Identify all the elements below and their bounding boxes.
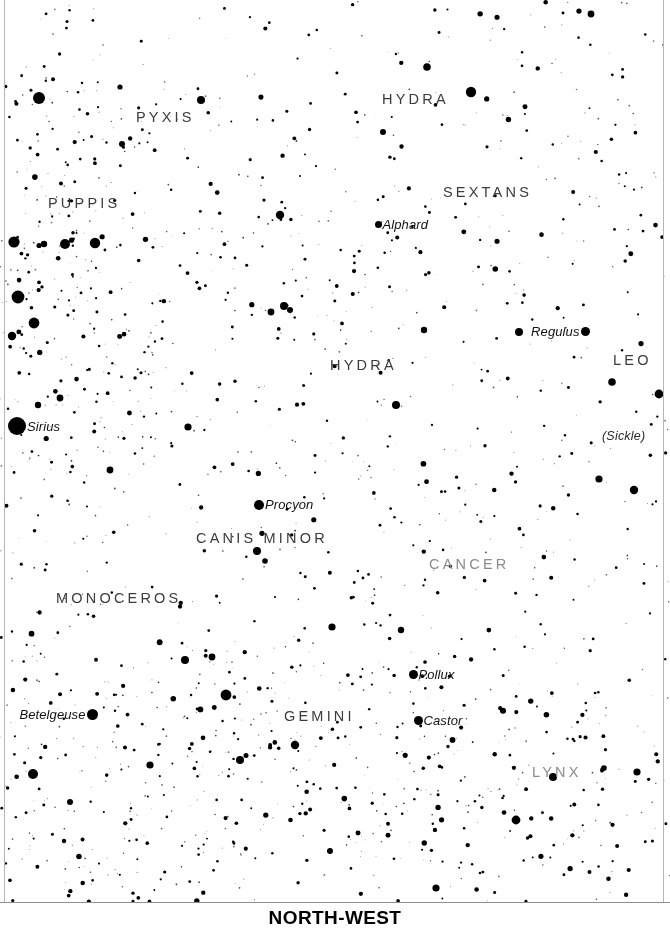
constellation-label-pyxis: PYXIS	[136, 110, 195, 125]
star-marker-castor	[414, 716, 423, 725]
direction-caption: NORTH-WEST	[0, 903, 670, 932]
star-name-regulus: Regulus	[531, 325, 579, 338]
constellation-label-puppis: PUPPIS	[48, 196, 120, 211]
constellation-label-monoceros: MONOCEROS	[56, 591, 181, 606]
sky-panel: PYXISHYDRAPUPPISSEXTANSHYDRALEOCANIS MIN…	[0, 0, 670, 903]
constellation-label-hydra: HYDRA	[330, 358, 397, 373]
star-marker-pollux	[409, 670, 418, 679]
named-star-betelgeuse: Betelgeuse	[19, 708, 97, 721]
named-star-procyon: Procyon	[254, 498, 313, 511]
frame-border-left	[4, 0, 5, 903]
star-name-pollux: Pollux	[419, 668, 455, 681]
star-name-sirius: Sirius	[27, 420, 60, 433]
constellation-label-cancer: CANCER	[429, 557, 509, 572]
star-name-alphard: Alphard	[383, 218, 429, 231]
constellation-label-sextans: SEXTANS	[443, 185, 532, 200]
named-star-pollux: Pollux	[409, 668, 455, 681]
aux-label-sickle: (Sickle)	[602, 430, 645, 443]
constellation-label-hydra: HYDRA	[382, 92, 449, 107]
star-name-procyon: Procyon	[265, 498, 313, 511]
constellation-label-gemini: GEMINI	[284, 709, 355, 724]
named-star-alphard: Alphard	[375, 218, 429, 231]
named-star-castor: Castor	[414, 714, 463, 727]
star-marker-sirius	[8, 417, 26, 435]
named-star-sirius: Sirius	[8, 417, 60, 435]
star-name-betelgeuse: Betelgeuse	[19, 708, 85, 721]
star-marker-regulus	[581, 327, 590, 336]
star-marker-procyon	[254, 500, 264, 510]
star-marker-alphard	[375, 221, 382, 228]
star-chart: PYXISHYDRAPUPPISSEXTANSHYDRALEOCANIS MIN…	[0, 0, 670, 932]
constellation-label-lynx: LYNX	[532, 765, 582, 780]
frame-border-right	[663, 0, 664, 903]
constellation-label-leo: LEO	[613, 353, 652, 368]
star-name-castor: Castor	[424, 714, 463, 727]
named-star-regulus: Regulus	[531, 325, 589, 338]
constellation-label-canis-minor: CANIS MINOR	[196, 531, 328, 546]
star-marker-betelgeuse	[87, 709, 98, 720]
